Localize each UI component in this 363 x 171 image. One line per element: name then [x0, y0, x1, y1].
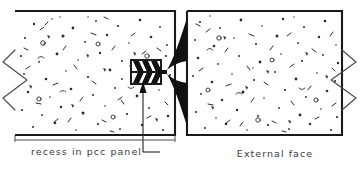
drawing-canvas: recess in pcc panel External face [0, 0, 363, 171]
pcc-panel-right [187, 11, 342, 135]
recess-label: recess in pcc panel [31, 146, 142, 157]
recess-detail [131, 60, 162, 84]
technical-drawing-svg: recess in pcc panel External face [0, 0, 363, 171]
external-face-label: External face [237, 148, 313, 159]
right-panel-fill [187, 11, 342, 135]
